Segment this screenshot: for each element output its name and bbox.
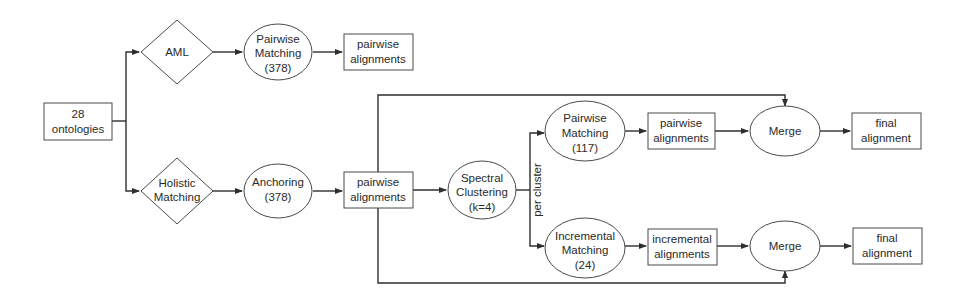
node-incremental-alignments: incremental alignments bbox=[648, 229, 717, 265]
node-pairwise-alignments-mid: pairwise alignments bbox=[344, 172, 413, 208]
node-pairwise-alignments-top: pairwise alignments bbox=[344, 34, 413, 70]
svg-text:alignments: alignments bbox=[350, 191, 406, 203]
svg-text:pairwise: pairwise bbox=[357, 176, 399, 188]
svg-text:Spectral: Spectral bbox=[461, 172, 503, 184]
svg-text:AML: AML bbox=[165, 46, 189, 58]
node-final-alignment-top: final alignment bbox=[852, 113, 921, 149]
node-final-alignment-bottom: final alignment bbox=[853, 228, 922, 264]
svg-text:Merge: Merge bbox=[769, 240, 802, 252]
svg-text:Incremental: Incremental bbox=[555, 230, 615, 242]
svg-text:(378): (378) bbox=[265, 191, 292, 203]
svg-text:alignment: alignment bbox=[862, 247, 913, 259]
node-pairwise-matching-378: Pairwise Matching (378) bbox=[244, 24, 312, 80]
svg-text:(378): (378) bbox=[265, 62, 292, 74]
svg-text:final: final bbox=[876, 232, 897, 244]
svg-text:final: final bbox=[875, 117, 896, 129]
node-spectral-clustering: Spectral Clustering (k=4) bbox=[448, 161, 516, 219]
svg-text:(k=4): (k=4) bbox=[469, 201, 496, 213]
svg-text:Matching: Matching bbox=[562, 244, 609, 256]
svg-text:pairwise: pairwise bbox=[357, 38, 399, 50]
svg-text:(117): (117) bbox=[572, 142, 598, 154]
node-incremental-matching: Incremental Matching (24) bbox=[545, 218, 625, 278]
svg-text:Clustering: Clustering bbox=[456, 186, 508, 198]
svg-text:Holistic: Holistic bbox=[158, 177, 195, 189]
node-merge-top: Merge bbox=[750, 106, 820, 156]
svg-text:28: 28 bbox=[72, 108, 85, 120]
svg-text:ontologies: ontologies bbox=[52, 123, 105, 135]
svg-text:pairwise: pairwise bbox=[660, 117, 702, 129]
node-anchoring: Anchoring (378) bbox=[244, 164, 312, 218]
svg-text:incremental: incremental bbox=[652, 233, 711, 245]
svg-text:Merge: Merge bbox=[769, 125, 802, 137]
svg-text:Matching: Matching bbox=[154, 191, 201, 203]
node-holistic-matching-diamond: Holistic Matching bbox=[141, 158, 213, 224]
svg-text:(24): (24) bbox=[575, 259, 596, 271]
svg-text:alignments: alignments bbox=[654, 248, 710, 260]
svg-text:alignments: alignments bbox=[350, 53, 406, 65]
node-input-ontologies: 28 ontologies bbox=[44, 103, 112, 140]
svg-text:Matching: Matching bbox=[562, 127, 609, 139]
node-pairwise-matching-117: Pairwise Matching (117) bbox=[545, 101, 625, 161]
node-merge-bottom: Merge bbox=[750, 221, 820, 271]
svg-text:Matching: Matching bbox=[255, 47, 302, 59]
pipeline-diagram: per cluster 28 ontologies AML Pairwise M… bbox=[0, 0, 968, 303]
svg-text:alignments: alignments bbox=[653, 132, 709, 144]
node-aml-diamond: AML bbox=[141, 20, 213, 84]
svg-text:alignment: alignment bbox=[861, 132, 912, 144]
edge-input-aml bbox=[126, 52, 139, 121]
svg-text:Anchoring: Anchoring bbox=[252, 176, 304, 188]
edge-input-holistic bbox=[126, 121, 139, 191]
per-cluster-label: per cluster bbox=[531, 163, 543, 217]
node-pairwise-alignments-cluster: pairwise alignments bbox=[648, 113, 715, 149]
svg-text:Pairwise: Pairwise bbox=[256, 33, 299, 45]
svg-text:Pairwise: Pairwise bbox=[563, 112, 606, 124]
